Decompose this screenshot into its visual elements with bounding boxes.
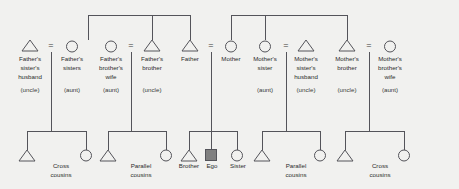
label-fathers-brothers-wife-1: Father's — [100, 55, 122, 62]
label-mothers-brothers-wife-3: wife — [383, 73, 396, 80]
label-mothers-brothers-wife-2: brother's — [378, 64, 402, 71]
label-mother: Mother — [221, 55, 240, 62]
label-mothers-sisters-husband-1: Mother's — [294, 55, 318, 62]
label-fathers-brother-1: Father's — [141, 55, 163, 62]
label-fathers-sisters-husband-1: Father's — [19, 55, 41, 62]
marriage-equals-5: = — [366, 40, 371, 50]
label-father: Father — [181, 55, 199, 62]
label-fathers-sisters-husband-3: husband — [18, 73, 42, 80]
label-ego: Ego — [206, 162, 218, 169]
label-parallel-cousins-right-1: Parallel — [286, 162, 307, 169]
relation-fathers-brother: (uncle) — [143, 86, 162, 93]
label-fathers-brothers-wife-2: brother's — [99, 64, 123, 71]
label-cross-cousins-left-1: Cross — [53, 162, 69, 169]
label-mothers-sister-1: Mother's — [253, 55, 277, 62]
relation-mothers-brother: (uncle) — [338, 86, 357, 93]
label-fathers-sister-2: sisters — [63, 64, 81, 71]
marriage-equals-4: = — [283, 40, 288, 50]
label-parallel-cousins-left-2: cousins — [131, 171, 152, 178]
marriage-equals-1: = — [48, 40, 53, 50]
relation-fathers-brothers-wife: (aunt) — [103, 86, 119, 93]
relation-mothers-brothers-wife: (aunt) — [382, 86, 398, 93]
label-parallel-cousins-right-2: cousins — [286, 171, 307, 178]
relation-mothers-sisters-husband: (uncle) — [297, 86, 316, 93]
relation-mothers-sister: (aunt) — [257, 86, 273, 93]
relation-fathers-sisters-husband: (uncle) — [21, 86, 40, 93]
label-parallel-cousins-left-1: Parallel — [131, 162, 152, 169]
label-fathers-brothers-wife-3: wife — [104, 73, 117, 80]
relation-fathers-sister: (aunt) — [64, 86, 80, 93]
label-mothers-sisters-husband-3: husband — [294, 73, 318, 80]
label-mothers-sisters-husband-2: sister's — [296, 64, 315, 71]
symbol-ego-filled-square — [206, 150, 217, 161]
label-cross-cousins-right-1: Cross — [372, 162, 388, 169]
marriage-equals-2: = — [128, 40, 133, 50]
label-cross-cousins-right-2: cousins — [370, 171, 391, 178]
label-mothers-brother-2: brother — [337, 64, 357, 71]
label-fathers-brother-2: brother — [142, 64, 162, 71]
label-fathers-sister-1: Father's — [61, 55, 83, 62]
label-mothers-brother-1: Mother's — [335, 55, 359, 62]
marriage-equals-3: = — [208, 40, 213, 50]
label-sister: Sister — [230, 162, 246, 169]
label-brother: Brother — [179, 162, 199, 169]
diagram-background — [0, 0, 459, 189]
label-mothers-brothers-wife-1: Mother's — [378, 55, 402, 62]
label-fathers-sisters-husband-2: sister's — [20, 64, 39, 71]
label-mothers-sister-2: sister — [258, 64, 273, 71]
label-cross-cousins-left-2: cousins — [51, 171, 72, 178]
kinship-diagram: = = = = = Father's sister's husband (unc… — [0, 0, 459, 189]
